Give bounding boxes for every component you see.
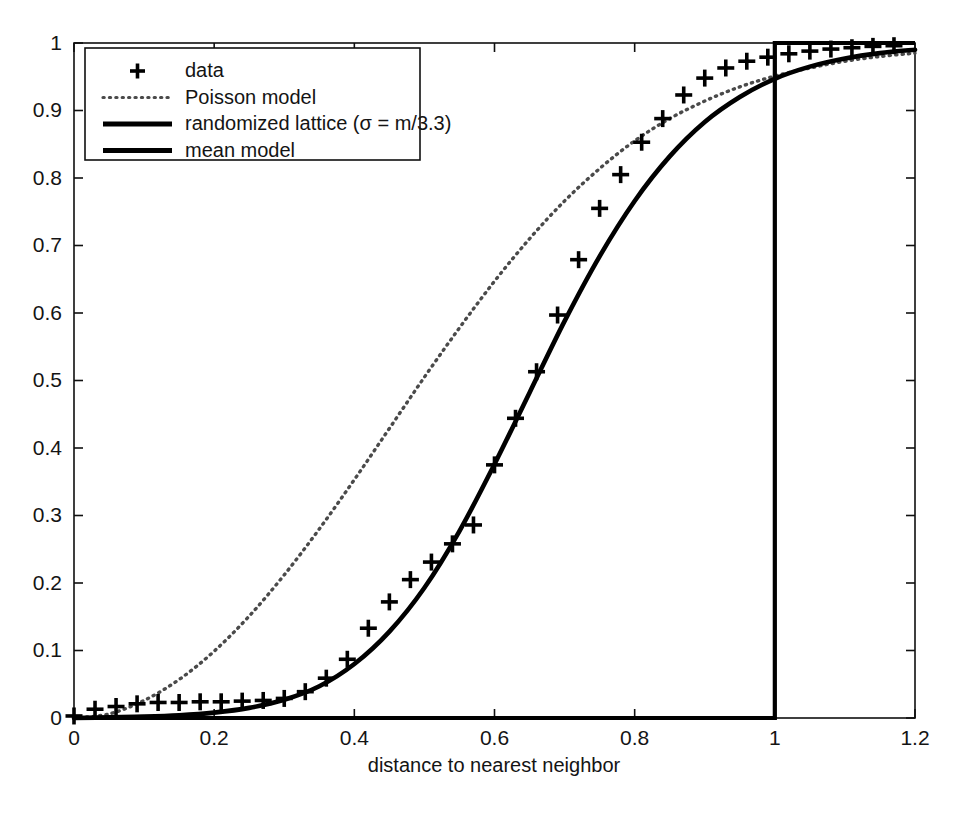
y-tick-label: 0.6 bbox=[33, 301, 62, 324]
y-tick-label: 0 bbox=[50, 706, 62, 729]
y-tick-label: 0.2 bbox=[33, 571, 62, 594]
x-tick-label: 0.2 bbox=[200, 726, 229, 749]
chart-canvas: 00.10.20.30.40.50.60.70.80.91 00.20.40.6… bbox=[0, 0, 965, 819]
x-tick-label: 1.2 bbox=[900, 726, 929, 749]
legend-label: mean model bbox=[185, 139, 295, 161]
legend-label: data bbox=[185, 59, 225, 81]
y-tick-label: 0.5 bbox=[33, 368, 62, 391]
y-tick-label: 0.8 bbox=[33, 166, 62, 189]
x-tick-label: 0.6 bbox=[480, 726, 509, 749]
legend-label: randomized lattice (σ = m/3.3) bbox=[185, 112, 451, 134]
y-tick-label: 1 bbox=[50, 31, 62, 54]
y-tick-label: 0.9 bbox=[33, 98, 62, 121]
figure-container: 00.10.20.30.40.50.60.70.80.91 00.20.40.6… bbox=[0, 0, 965, 819]
legend: dataPoisson modelrandomized lattice (σ =… bbox=[85, 48, 451, 161]
y-tick-label: 0.7 bbox=[33, 233, 62, 256]
x-tick-label: 0.4 bbox=[340, 726, 370, 749]
y-tick-label: 0.3 bbox=[33, 503, 62, 526]
x-tick-label: 1 bbox=[769, 726, 781, 749]
x-tick-label: 0 bbox=[68, 726, 80, 749]
y-tick-label: 0.1 bbox=[33, 638, 62, 661]
y-tick-label: 0.4 bbox=[33, 436, 63, 459]
x-axis-title: distance to nearest neighbor bbox=[368, 754, 621, 776]
legend-label: Poisson model bbox=[185, 86, 316, 108]
x-tick-label: 0.8 bbox=[620, 726, 649, 749]
